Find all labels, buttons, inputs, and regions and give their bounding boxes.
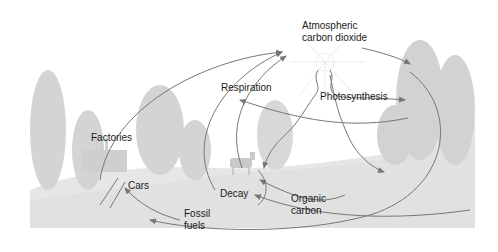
trees-right-icon [377,40,475,165]
photosynthesis-label: Photosynthesis [320,91,388,103]
diagram-illustration [0,0,498,252]
organic-label-line2: carbon [291,205,326,217]
cars-label: Cars [128,180,149,192]
respiration-label: Respiration [221,82,272,94]
fossil-label-line2: fuels [184,220,210,232]
organic-label-line1: Organic [291,193,326,205]
fossil-label-line1: Fossil [184,208,210,220]
carbon-cycle-diagram: Atmospheric carbon dioxide Respiration P… [0,0,498,252]
atmospheric-co2-label: Atmospheric carbon dioxide [302,20,367,44]
atmospheric-label-line1: Atmospheric [302,20,367,32]
atmospheric-label-line2: carbon dioxide [302,32,367,44]
decay-label: Decay [220,188,248,200]
organic-carbon-label: Organic carbon [291,193,326,217]
fossil-fuels-label: Fossil fuels [184,208,210,232]
factories-label: Factories [91,132,132,144]
